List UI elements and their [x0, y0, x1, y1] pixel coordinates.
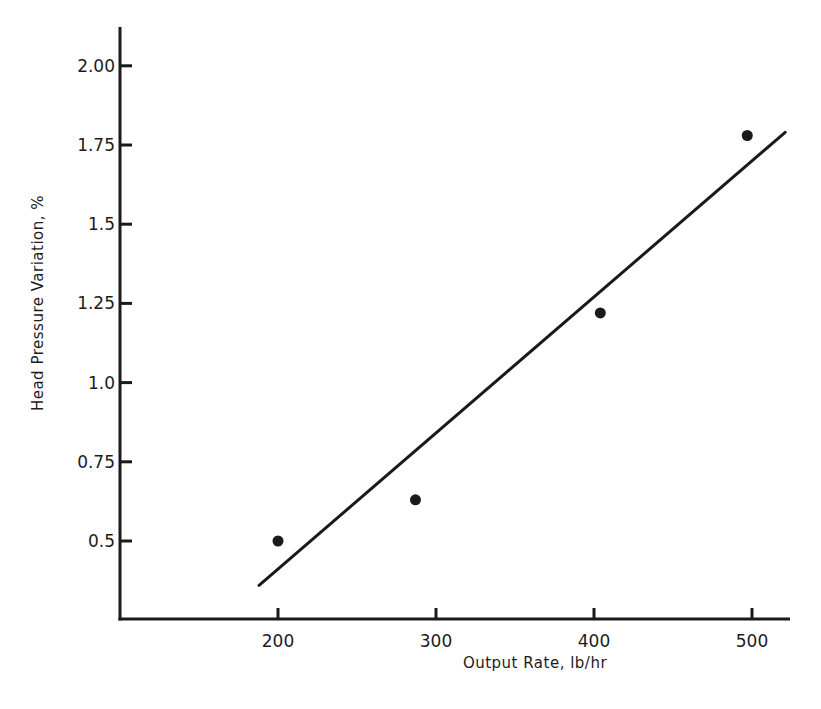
y-tick-label: 0.75	[77, 452, 115, 472]
x-axis: 200300400500	[119, 608, 791, 651]
data-point	[595, 307, 606, 318]
scatter-chart: 0.50.751.01.251.51.752.00 200300400500 O…	[0, 0, 821, 709]
x-tick-label: 200	[262, 631, 294, 651]
y-tick-label: 1.0	[88, 373, 115, 393]
y-tick-label: 1.5	[88, 214, 115, 234]
x-axis-label: Output Rate, lb/hr	[463, 654, 608, 672]
y-tick-label: 1.75	[77, 135, 115, 155]
y-tick-label: 0.5	[88, 531, 115, 551]
data-point	[273, 536, 284, 547]
x-tick-label: 300	[420, 631, 452, 651]
plot-area	[259, 130, 785, 585]
x-tick-label: 500	[736, 631, 768, 651]
y-axis: 0.50.751.01.251.51.752.00	[77, 27, 132, 621]
y-axis-label: Head Pressure Variation, %	[29, 195, 47, 411]
data-point	[410, 494, 421, 505]
y-tick-label: 1.25	[77, 293, 115, 313]
y-tick-label: 2.00	[77, 56, 115, 76]
fit-line	[259, 132, 785, 585]
data-point	[742, 130, 753, 141]
x-tick-label: 400	[578, 631, 610, 651]
